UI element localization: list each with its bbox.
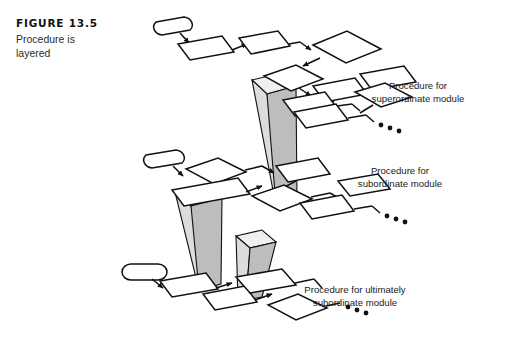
figure-caption-line-2: layered [16, 47, 50, 59]
figure-number: FIGURE 13.5 [16, 17, 98, 29]
node-terminator [122, 264, 167, 280]
label-superordinate-line-2: superordinate module [372, 93, 465, 106]
label-subordinate-line-1: Procedure for [358, 165, 442, 178]
pillar-superordinate-to-subordinate [252, 73, 297, 206]
ellipsis-dots [379, 123, 402, 134]
node-terminator [154, 17, 193, 35]
label-superordinate-line-1: Procedure for [372, 80, 465, 93]
ellipsis-dots [385, 214, 408, 225]
label-subordinate-line-2: subordinate module [358, 178, 442, 191]
figure-caption-line-1: Procedure is [16, 33, 75, 45]
node-terminator [144, 150, 185, 168]
label-superordinate-module: Procedure for superordinate module [372, 80, 465, 105]
diagram-canvas: .nd{fill:#fff;stroke:#111;stroke-width:1… [0, 0, 529, 354]
label-ultimately-subordinate-module: Procedure for ultimately subordinate mod… [304, 284, 405, 309]
label-subordinate-module: Procedure for subordinate module [358, 165, 442, 190]
figure-root: .nd{fill:#fff;stroke:#111;stroke-width:1… [0, 0, 529, 354]
label-ultimately-subordinate-line-2: subordinate module [304, 297, 405, 310]
label-ultimately-subordinate-line-1: Procedure for ultimately [304, 284, 405, 297]
